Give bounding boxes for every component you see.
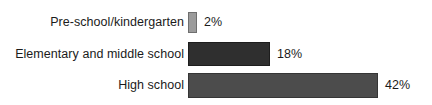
bar-value-label: 2% (204, 16, 222, 29)
bar-fill (188, 73, 378, 98)
bar-fill (188, 42, 270, 66)
bar-category-label: Elementary and middle school (0, 48, 184, 61)
bar-container: 42% (188, 73, 410, 98)
bar-value-label: 18% (277, 48, 302, 61)
bar-row: Pre-school/kindergarten 2% (0, 12, 432, 33)
bar-value-label: 42% (385, 79, 410, 92)
bar-row: Elementary and middle school 18% (0, 42, 432, 66)
bar-fill (188, 12, 197, 33)
bar-container: 18% (188, 42, 302, 66)
horizontal-bar-chart: Pre-school/kindergarten 2% Elementary an… (0, 0, 432, 105)
bar-category-label: High school (0, 79, 184, 92)
bar-row: High school 42% (0, 73, 432, 98)
bar-category-label: Pre-school/kindergarten (0, 16, 184, 29)
bar-container: 2% (188, 12, 222, 33)
